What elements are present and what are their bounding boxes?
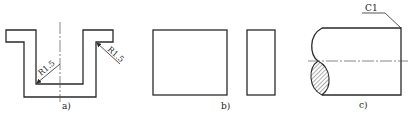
figure-label-b: b) [221, 101, 230, 111]
side-view-rect [247, 30, 275, 95]
chamfer-callout-text: C1 [365, 3, 378, 13]
figure-label-c: c) [359, 100, 368, 110]
dimension-right-text: R1.5 [106, 45, 126, 64]
technical-drawing: R1.5 R1.5 a) b) C1 c) [0, 0, 408, 115]
figure-a: R1.5 R1.5 a) [6, 22, 126, 111]
figure-c: C1 c) [308, 3, 408, 110]
figure-label-a: a) [62, 101, 71, 111]
shaft-outline [322, 28, 401, 95]
chamfer-leader [362, 13, 401, 28]
figure-b: b) [153, 30, 275, 111]
hatched-section [311, 61, 329, 95]
front-view-square [153, 30, 227, 95]
u-channel-outline [6, 30, 113, 97]
break-line-upper [312, 28, 322, 61]
